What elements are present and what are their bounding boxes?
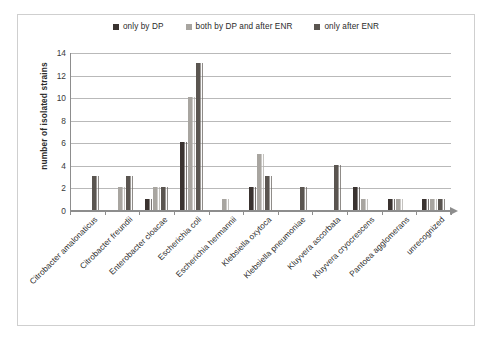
plot-area	[70, 53, 451, 211]
y-axis-tick-labels: 14121086420	[46, 53, 66, 211]
plot-wrapper: number of isolated strains 14121086420 C…	[18, 15, 476, 327]
bar[interactable]	[145, 199, 152, 210]
y-axis-tick-label: 12	[46, 71, 66, 81]
x-axis-category-labels: Citrobacter amalonaticusCitrobacter freu…	[70, 215, 451, 320]
bar[interactable]	[265, 176, 272, 210]
bar[interactable]	[438, 199, 445, 210]
bar-group	[209, 53, 244, 210]
bar[interactable]	[388, 199, 395, 210]
bar[interactable]	[92, 176, 99, 210]
bar[interactable]	[126, 176, 133, 210]
bar-group	[312, 53, 347, 210]
bar-group	[70, 53, 105, 210]
bar-group	[347, 53, 382, 210]
bar-group	[174, 53, 209, 210]
bar[interactable]	[222, 199, 229, 210]
bar[interactable]	[153, 187, 160, 210]
bar-group	[416, 53, 451, 210]
y-axis-tick-label: 14	[46, 48, 66, 58]
bar[interactable]	[300, 187, 307, 210]
y-axis-tick-label: 0	[46, 206, 66, 216]
x-axis-category-label: Klebsiella pneumoniae	[242, 215, 307, 280]
y-axis-tick-label: 8	[46, 116, 66, 126]
bar-group	[243, 53, 278, 210]
bar-group	[278, 53, 313, 210]
x-axis-tick	[451, 211, 452, 215]
bar[interactable]	[361, 199, 368, 210]
bar[interactable]	[161, 187, 168, 210]
bar-group	[139, 53, 174, 210]
bar[interactable]	[257, 154, 264, 210]
bar[interactable]	[430, 199, 437, 210]
bar[interactable]	[422, 199, 429, 210]
bar[interactable]	[353, 187, 360, 210]
x-axis-category-label: Escherichia hermannii	[174, 215, 238, 279]
bar[interactable]	[196, 63, 203, 210]
y-axis-tick-label: 10	[46, 93, 66, 103]
x-axis-category-label: Enterobacter cloacae	[107, 215, 169, 277]
bar[interactable]	[180, 142, 187, 210]
bar[interactable]	[188, 97, 195, 210]
bar[interactable]	[334, 165, 341, 210]
x-axis-category-label: Pantoea agglomerans	[348, 215, 412, 279]
bar-groups	[70, 53, 451, 210]
bar-group	[105, 53, 140, 210]
bar[interactable]	[118, 187, 125, 210]
chart-frame: only by DP both by DP and after ENR only…	[17, 14, 475, 326]
y-axis-tick-label: 2	[46, 183, 66, 193]
x-axis-category-label: Citrobacter amalonaticus	[28, 215, 99, 286]
bar-group	[382, 53, 417, 210]
x-axis-category-label: Kluyvera cryocrescens	[311, 215, 376, 280]
chart-page: only by DP both by DP and after ENR only…	[0, 0, 492, 341]
bar[interactable]	[396, 199, 403, 210]
bar[interactable]	[249, 187, 256, 210]
y-axis-tick-label: 6	[46, 138, 66, 148]
y-axis-tick-label: 4	[46, 161, 66, 171]
